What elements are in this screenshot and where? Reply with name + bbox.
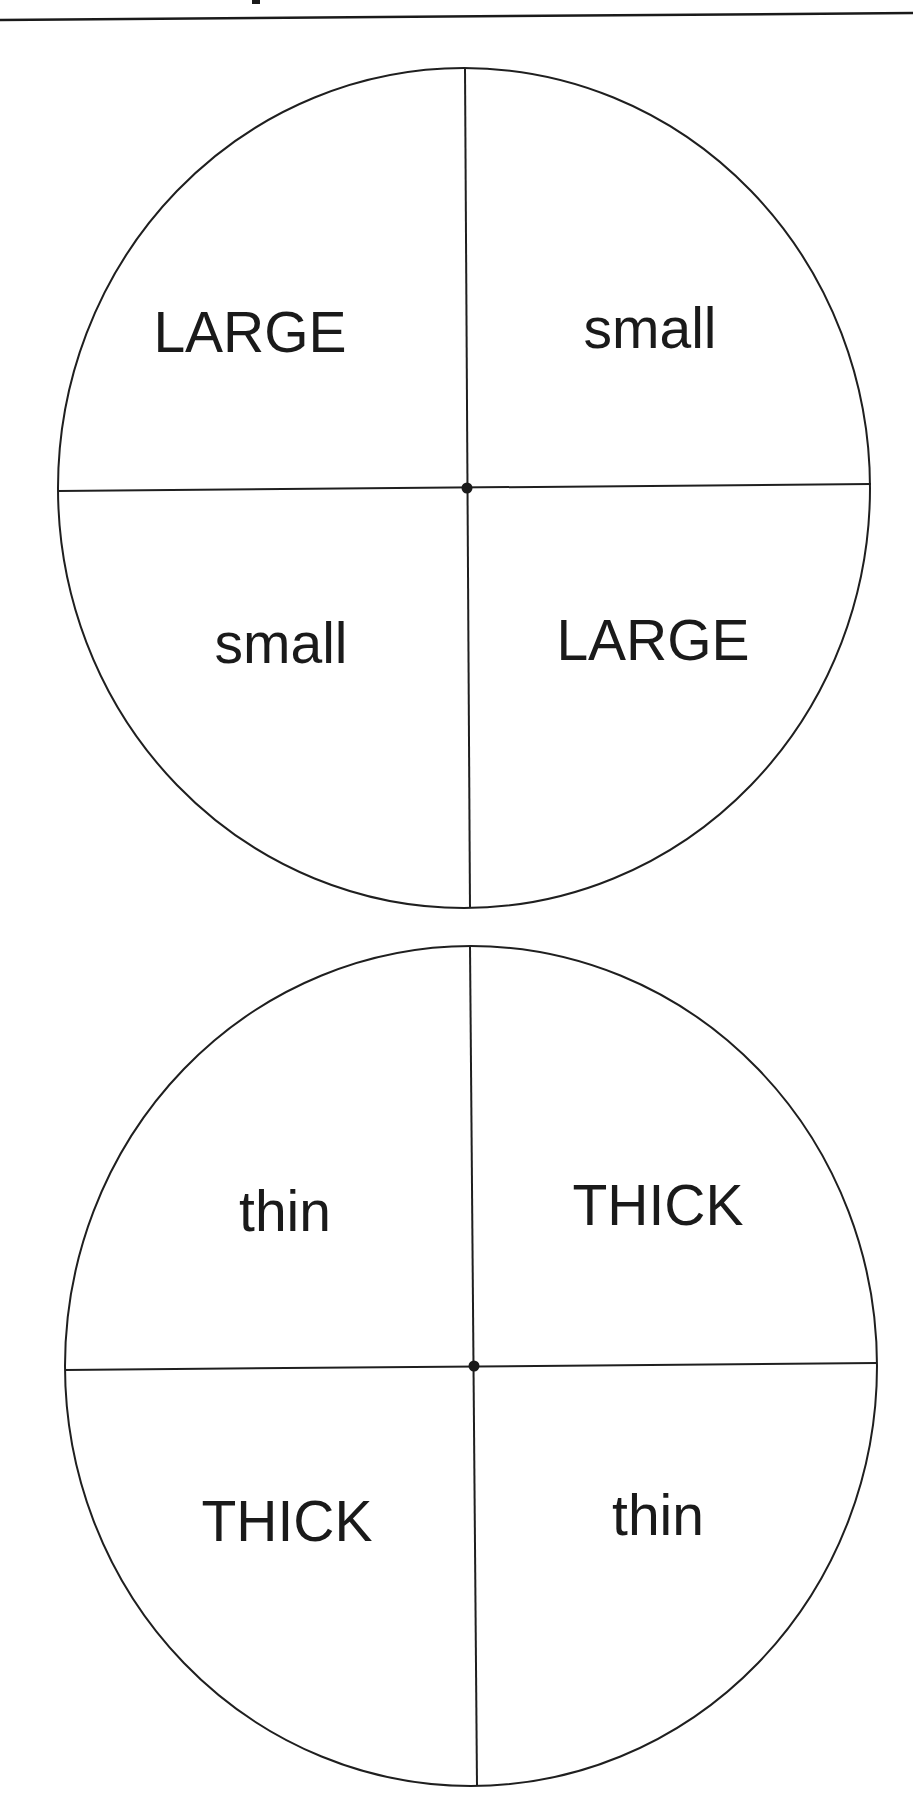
quadrant-label-bottom-left: THICK — [202, 1489, 373, 1553]
spinner-center-pin[interactable] — [462, 483, 473, 494]
quadrant-label-bottom-left: small — [214, 611, 347, 675]
quadrant-label-bottom-right: LARGE — [556, 608, 749, 672]
quadrant-label-top-right: THICK — [573, 1173, 744, 1237]
spinner-center-pin[interactable] — [469, 1361, 480, 1372]
header-text-fragment — [252, 0, 260, 4]
thickness-spinner: thin THICK THICK thin — [65, 946, 877, 1786]
quadrant-label-top-right: small — [583, 296, 716, 360]
size-spinner: LARGE small small LARGE — [58, 68, 871, 908]
quadrant-label-bottom-right: thin — [612, 1483, 704, 1547]
worksheet-page: LARGE small small LARGE thin THICK THICK… — [0, 0, 913, 1814]
quadrant-label-top-left: thin — [239, 1179, 331, 1243]
quadrant-label-top-left: LARGE — [153, 300, 346, 364]
header-rule — [0, 13, 913, 20]
